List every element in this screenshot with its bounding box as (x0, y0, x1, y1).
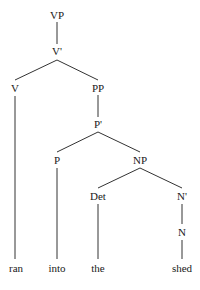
node-n: N (178, 226, 186, 238)
node-v: V (11, 82, 19, 94)
tree-edges (15, 22, 182, 259)
node-p: P (54, 154, 60, 166)
node-nbar: N' (177, 190, 187, 202)
edge-pbar-p (57, 132, 98, 152)
leaf-the: the (91, 262, 105, 274)
node-pp: PP (92, 82, 104, 94)
leaf-into: into (48, 262, 66, 274)
syntax-tree-diagram: VP V' V PP P' P NP Det N' N ran into the… (0, 0, 200, 290)
node-det: Det (90, 190, 106, 202)
tree-nodes: VP V' V PP P' P NP Det N' N ran into the… (9, 9, 193, 274)
edge-pbar-np (98, 132, 140, 152)
edge-vbar-v (15, 60, 57, 80)
edge-np-det (98, 168, 140, 188)
leaf-shed: shed (172, 262, 193, 274)
node-pbar: P' (94, 118, 102, 130)
node-vbar: V' (52, 45, 62, 57)
leaf-ran: ran (9, 262, 24, 274)
node-np: NP (133, 154, 147, 166)
node-vp: VP (50, 9, 64, 21)
edge-vbar-pp (57, 60, 98, 80)
edge-np-nbar (140, 168, 182, 188)
